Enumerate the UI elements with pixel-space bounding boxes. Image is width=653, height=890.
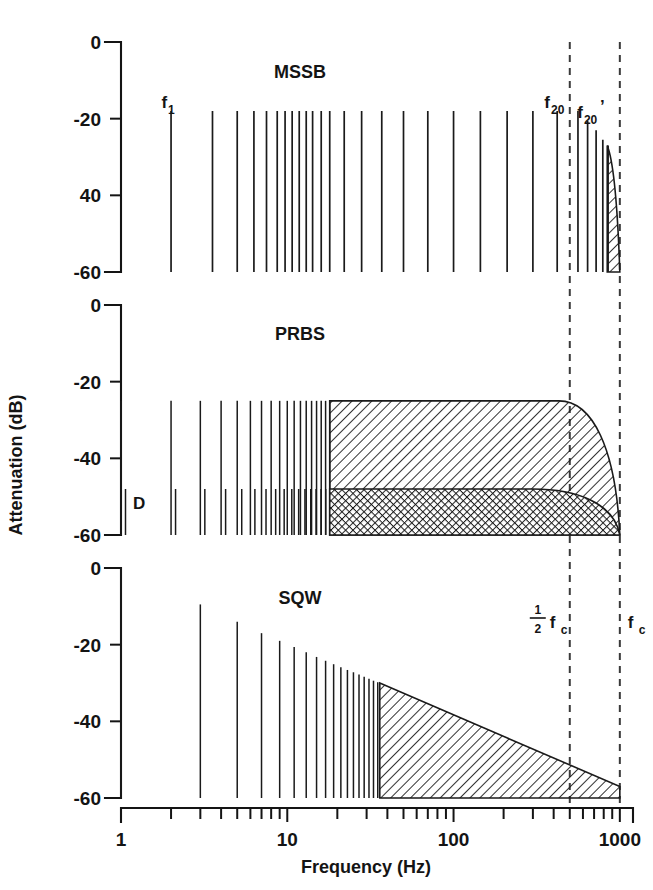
sqw-plot: SQW12fcfc	[121, 568, 646, 798]
mssb-plot: MSSBf1f20f20’	[161, 62, 619, 272]
y-tick-label: 40	[80, 185, 101, 206]
y-tick-label: 0	[90, 32, 101, 53]
half-fc-numerator: 1	[534, 603, 541, 617]
x-tick-label: 10	[277, 829, 298, 850]
y-axis-spine	[105, 568, 121, 798]
figure-svg: 0-2040-600-20-40-600-20-40-601101001000M…	[0, 0, 653, 890]
sqw-panel-title: SQW	[279, 588, 322, 608]
y-axis-title: Attenuation (dB)	[6, 395, 26, 536]
y-tick-label: -20	[74, 635, 101, 656]
x-tick-label: 100	[438, 829, 470, 850]
x-axis: 1101001000	[116, 808, 641, 850]
mssb-panel-title: MSSB	[274, 62, 326, 82]
x-tick-label: 1000	[599, 829, 641, 850]
y-axis-spine	[105, 305, 121, 535]
y-tick-label: 0	[90, 295, 101, 316]
f20-subscript: 20	[551, 103, 565, 117]
x-axis-title: Frequency (Hz)	[301, 857, 431, 877]
y-axis-spine	[105, 42, 121, 272]
f1-label: f	[161, 93, 167, 112]
f20-prime-mark: ’	[600, 97, 605, 116]
f20-prime-label: f	[577, 103, 583, 122]
y-tick-label: -60	[74, 262, 101, 283]
sqw-envelope-fill	[380, 683, 620, 798]
half-fc-subscript: c	[561, 623, 568, 637]
fc-subscript: c	[639, 623, 646, 637]
y-tick-label: -40	[74, 711, 101, 732]
y-tick-label: -20	[74, 372, 101, 393]
prbs-plot: PRBSD	[121, 324, 620, 535]
f20-label: f	[544, 93, 550, 112]
y-tick-label: -20	[74, 109, 101, 130]
f20-prime-subscript: 20	[584, 113, 598, 127]
y-axis-title-text: Attenuation (dB)	[6, 395, 26, 536]
half-fc-denominator: 2	[534, 622, 541, 636]
fc-f-label: f	[628, 613, 634, 632]
plot-root: 0-2040-600-20-40-600-20-40-601101001000M…	[74, 32, 646, 850]
y-tick-label: -60	[74, 525, 101, 546]
y-tick-label: -60	[74, 788, 101, 809]
prbs-panel-title: PRBS	[275, 324, 325, 344]
y-tick-label: -40	[74, 448, 101, 469]
panel-prbs: 0-20-40-60	[74, 295, 121, 546]
panel-mssb: 0-2040-60	[74, 32, 121, 283]
x-tick-label: 1	[116, 829, 127, 850]
x-axis-title-text: Frequency (Hz)	[301, 857, 431, 877]
spectrum-figure: 0-2040-600-20-40-600-20-40-601101001000M…	[0, 0, 653, 890]
mssb-alias-wedge-fill	[607, 146, 620, 273]
f1-subscript: 1	[168, 103, 175, 117]
x-axis-spine	[121, 808, 633, 822]
y-tick-label: 0	[90, 558, 101, 579]
half-fc-f-label: f	[550, 613, 556, 632]
panel-sqw: 0-20-40-60	[74, 558, 121, 809]
prbs-distortion-label: D	[133, 494, 145, 513]
prbs-band-distortion-fill	[330, 489, 620, 535]
